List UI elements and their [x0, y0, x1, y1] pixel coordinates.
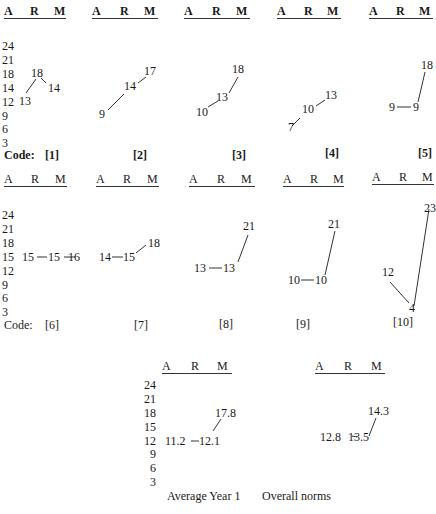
- y-tick: 9: [2, 279, 8, 291]
- value-label: 15: [123, 251, 135, 263]
- axis-m: M: [241, 172, 252, 187]
- axis-a: A: [372, 170, 381, 185]
- axis-a: A: [315, 359, 324, 374]
- code-7: [7]: [134, 318, 148, 333]
- code-5: [5]: [418, 146, 432, 161]
- value-label: 10: [288, 274, 300, 286]
- y-tick: 21: [144, 393, 156, 405]
- axis-r: R: [310, 172, 318, 187]
- y-tick: 6: [2, 292, 8, 304]
- panel-8-header: A R M: [189, 172, 255, 187]
- panel-7-header: A R M: [96, 172, 159, 187]
- axis-a: A: [96, 172, 105, 187]
- value-label: 23: [424, 202, 436, 214]
- value-label: 16: [68, 251, 80, 263]
- value-label: 13.5: [348, 431, 369, 443]
- code-label: Code:: [4, 318, 33, 333]
- value-label: 4: [409, 302, 415, 314]
- axis-a: A: [4, 172, 13, 187]
- value-label: 12: [382, 266, 394, 278]
- y-tick: 15: [144, 421, 156, 433]
- axis-r: R: [217, 172, 225, 187]
- axis-r: R: [344, 359, 352, 374]
- y-tick: 18: [2, 237, 14, 249]
- value-label: 17: [144, 65, 156, 77]
- y-tick: 9: [150, 448, 156, 460]
- code-10: [10]: [393, 315, 413, 330]
- axis-m: M: [217, 359, 228, 374]
- axis-r: R: [191, 359, 199, 374]
- value-label: 10: [196, 106, 208, 118]
- value-label: 18: [31, 67, 43, 79]
- code-6: [6]: [45, 318, 59, 333]
- axis-a: A: [162, 359, 171, 374]
- value-label: 14: [48, 82, 60, 94]
- panel-9-header: A R M: [283, 172, 344, 187]
- code-9: [9]: [296, 317, 310, 332]
- code-8: [8]: [219, 317, 233, 332]
- value-label: 9: [413, 101, 419, 113]
- norms-header: A R M: [315, 359, 385, 374]
- code-2: [2]: [133, 148, 147, 163]
- value-label: 14: [124, 80, 136, 92]
- caption-overall-norms: Overall norms: [262, 489, 331, 504]
- value-label: 15: [22, 251, 34, 263]
- panel-10-header: A R M: [372, 170, 434, 185]
- axis-m: M: [371, 359, 382, 374]
- y-tick: 3: [150, 476, 156, 488]
- axis-a: A: [189, 172, 198, 187]
- value-label: 15: [48, 251, 60, 263]
- value-label: 10: [302, 103, 314, 115]
- y-tick: 24: [2, 209, 14, 221]
- value-label: 10: [315, 274, 327, 286]
- axis-m: M: [422, 170, 433, 185]
- axis-m: M: [55, 172, 66, 187]
- y-tick: 21: [2, 223, 14, 235]
- axis-m: M: [333, 172, 344, 187]
- value-label: 12.1: [199, 435, 220, 447]
- value-label: 17.8: [215, 407, 236, 419]
- axis-m: M: [147, 172, 158, 187]
- code-4: [4]: [325, 146, 339, 161]
- value-label: 11.2: [165, 435, 186, 447]
- y-tick: 12: [2, 265, 14, 277]
- value-label: 14: [99, 251, 111, 263]
- panel-6-header: A R M: [4, 172, 67, 187]
- y-tick: 15: [2, 251, 14, 263]
- code-1: [1]: [45, 148, 59, 163]
- y-tick: 12: [144, 435, 156, 447]
- caption-average-year-1: Average Year 1: [167, 489, 240, 504]
- value-label: 21: [328, 218, 340, 230]
- code-label: Code:: [4, 148, 35, 163]
- value-label: 13: [223, 262, 235, 274]
- code-3: [3]: [232, 148, 246, 163]
- axis-r: R: [399, 170, 407, 185]
- value-label: 12.8: [320, 431, 341, 443]
- y-tick: 24: [144, 379, 156, 391]
- axis-r: R: [123, 172, 131, 187]
- value-label: 21: [243, 220, 255, 232]
- value-label: 13: [216, 91, 228, 103]
- axis-a: A: [283, 172, 292, 187]
- y-tick: 6: [150, 462, 156, 474]
- value-label: 9: [99, 108, 105, 120]
- value-label: 18: [148, 237, 160, 249]
- value-label: 9: [389, 101, 395, 113]
- value-label: 13: [194, 262, 206, 274]
- average-header: A R M: [162, 359, 232, 374]
- y-tick: 18: [144, 407, 156, 419]
- value-label: 14.3: [368, 405, 389, 417]
- value-label: 13: [325, 89, 337, 101]
- value-label: 7: [288, 121, 294, 133]
- value-label: 18: [421, 59, 433, 71]
- axis-r: R: [31, 172, 39, 187]
- value-label: 13: [19, 95, 31, 107]
- value-label: 18: [232, 63, 244, 75]
- y-tick: 3: [2, 306, 8, 318]
